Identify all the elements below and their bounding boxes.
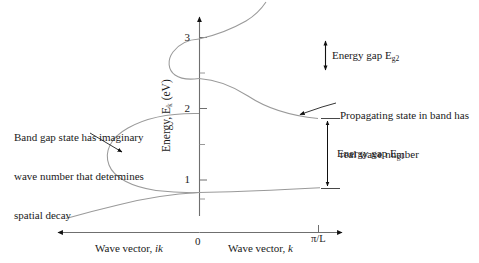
y-axis-title: Energy, Ek (eV) <box>160 79 175 152</box>
energy-gap-2-label-text: Energy gap E <box>332 49 392 61</box>
x-axis-right-title-var: k <box>288 242 293 254</box>
x-axis-left-title-var: ik <box>155 242 163 254</box>
y-axis-title-unit: (eV) <box>160 79 172 100</box>
energy-gap-2-label: Energy gap Eg2 <box>332 49 399 64</box>
energy-gap-1-label-sub: g1 <box>397 152 405 161</box>
y-tick-label-3: 3 <box>176 31 190 44</box>
y-tick-label-1: 1 <box>176 173 190 186</box>
propagating-state-note: Propagating state in band has real wave … <box>340 83 469 187</box>
energy-gap-1-label-text: Energy gap E <box>337 147 397 159</box>
curve-band3-gap-loop <box>169 39 199 79</box>
x-axis-right-title: Wave vector, k <box>228 242 293 255</box>
band-gap-state-note-line-3: spatial decay <box>14 209 144 222</box>
y-axis <box>200 17 208 216</box>
x-tick-label-pi-over-L: π/L <box>311 233 326 245</box>
band-gap-state-note-line-2: wave number that determines <box>14 170 144 183</box>
propagating-state-leader <box>300 103 336 115</box>
band-gap-state-note: Band gap state has imaginary wave number… <box>14 105 144 248</box>
curve-band1-real <box>199 188 320 193</box>
curve-band3-real <box>199 2 266 39</box>
curve-band2-real <box>199 79 318 119</box>
x-axis-right-title-text: Wave vector, <box>228 242 288 254</box>
origin-label: 0 <box>195 235 201 248</box>
energy-gap-2-label-sub: g2 <box>392 54 400 63</box>
band-gap-state-note-line-1: Band gap state has imaginary <box>14 131 144 144</box>
y-axis-title-sub: k <box>165 103 174 107</box>
y-axis-title-main: Energy, E <box>160 107 172 152</box>
band-structure-figure: 3 2 1 Energy, Ek (eV) 0 Wave vector, ik … <box>0 0 479 263</box>
y-tick-label-2: 2 <box>176 102 190 115</box>
propagating-state-note-line-1: Propagating state in band has <box>340 109 469 122</box>
energy-gap-1-label: Energy gap Eg1 <box>337 147 404 162</box>
